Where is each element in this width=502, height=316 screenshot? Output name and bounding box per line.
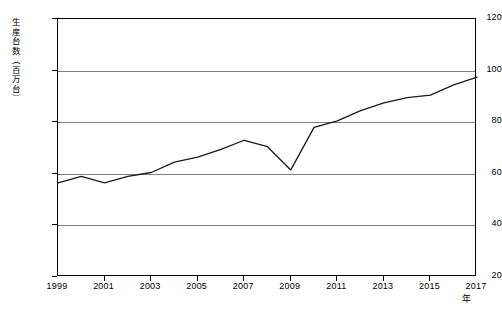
x-tick-label-2001: 2001 — [84, 281, 124, 291]
x-tick-label-2005: 2005 — [177, 281, 217, 291]
x-tick-label-2011: 2011 — [316, 281, 356, 291]
series-line-chart — [58, 19, 477, 277]
series-line-production — [58, 77, 477, 183]
y-axis-title: 生産台数（百万台） — [6, 18, 20, 104]
x-tick-label-1999: 1999 — [37, 281, 77, 291]
x-tick-label-2015: 2015 — [409, 281, 449, 291]
plot-area — [57, 18, 476, 276]
x-axis-title: 年 — [462, 294, 471, 304]
chart-figure: 生産台数（百万台） 20406080100120 199920012003200… — [0, 0, 502, 316]
x-tick-label-2003: 2003 — [130, 281, 170, 291]
x-tick-label-2007: 2007 — [223, 281, 263, 291]
x-tick-label-2009: 2009 — [270, 281, 310, 291]
y-tick-mark-20 — [52, 276, 57, 277]
x-tick-label-2013: 2013 — [363, 281, 403, 291]
x-tick-label-2017: 2017 — [456, 281, 496, 291]
